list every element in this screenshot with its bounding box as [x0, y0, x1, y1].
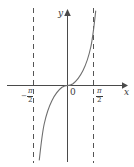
right-asymptote-fraction: π 2 — [96, 88, 103, 104]
right-asymptote-label: π 2 — [96, 88, 103, 104]
left-asymptote-numerator: π — [27, 88, 34, 95]
left-asymptote-fraction: π 2 — [27, 88, 34, 104]
left-asymptote-sign: − — [21, 93, 27, 100]
y-axis-arrow-icon — [64, 9, 71, 16]
right-asymptote-denominator: 2 — [96, 97, 102, 104]
y-axis-label: y — [58, 9, 63, 18]
graph-canvas — [0, 0, 134, 167]
left-asymptote-denominator: 2 — [27, 97, 33, 104]
right-asymptote-numerator: π — [96, 88, 103, 95]
left-asymptote-label: − π 2 — [21, 88, 33, 104]
tangent-function-figure: y x 0 − π 2 π 2 — [0, 0, 134, 167]
origin-label: 0 — [70, 88, 76, 97]
x-axis-label: x — [124, 88, 129, 97]
